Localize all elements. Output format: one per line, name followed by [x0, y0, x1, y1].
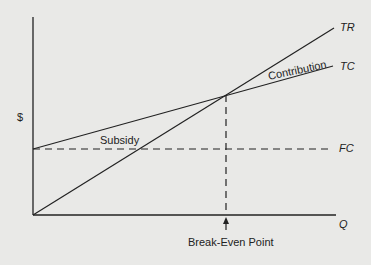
subsidy-label: Subsidy	[100, 134, 140, 146]
arrow-up-icon	[223, 217, 229, 230]
break-even-label: Break-Even Point	[188, 236, 274, 248]
contribution-label: Contribution	[267, 58, 328, 82]
y-axis-label: $	[17, 111, 23, 123]
x-axis-label: Q	[339, 218, 348, 230]
tr-label: TR	[340, 21, 355, 33]
tc-line	[33, 66, 333, 149]
tc-label: TC	[340, 60, 355, 72]
fc-label: FC	[339, 142, 354, 154]
break-even-diagram: $ Q TR TC FC Contribution Subsidy Break-…	[0, 0, 371, 265]
tr-line	[33, 28, 334, 215]
